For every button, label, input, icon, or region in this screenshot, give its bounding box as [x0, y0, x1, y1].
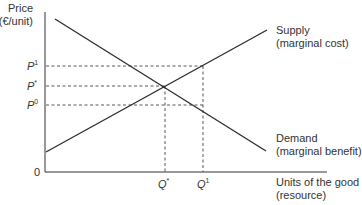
x-axis-label-line1: Units of the good [276, 176, 359, 189]
y-axis-label-line1: Price [0, 2, 33, 15]
tick-pstar: P* [27, 79, 37, 92]
x-axis-label-line2: (resource) [276, 189, 359, 202]
x-axis-label: Units of the good (resource) [276, 176, 359, 202]
supply-label-line1: Supply [276, 24, 349, 37]
tick-p0: P0 [27, 98, 38, 111]
demand-label-line1: Demand [276, 132, 362, 145]
supply-curve [46, 30, 267, 152]
y-axis-label: Price (€/unit) [0, 2, 33, 28]
tick-p1: P1 [27, 59, 38, 72]
y-axis-label-line2: (€/unit) [0, 15, 33, 28]
demand-label-line2: (marginal benefit) [276, 145, 362, 158]
demand-curve [55, 19, 266, 151]
tick-qstar: Q* [158, 177, 169, 190]
tick-q1: Q1 [197, 177, 209, 190]
origin-label: 0 [34, 166, 40, 179]
supply-label: Supply (marginal cost) [276, 24, 349, 50]
demand-label: Demand (marginal benefit) [276, 132, 362, 158]
supply-label-line2: (marginal cost) [276, 37, 349, 50]
